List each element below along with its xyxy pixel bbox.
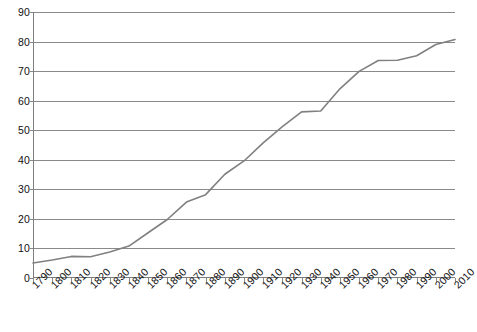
x-tick-label: 2010 <box>452 266 477 291</box>
y-tick-label: 50 <box>2 125 30 135</box>
y-tick-label: 30 <box>2 184 30 194</box>
plot-area <box>33 12 455 278</box>
x-axis: 1790180018101820183018401850186018701880… <box>33 283 461 332</box>
y-axis: 0102030405060708090 <box>0 0 30 332</box>
y-tick-label: 70 <box>2 66 30 76</box>
y-tick-label: 60 <box>2 96 30 106</box>
series-path <box>33 39 455 262</box>
y-tick-label: 40 <box>2 155 30 165</box>
y-tick-label: 20 <box>2 214 30 224</box>
y-tick-label: 0 <box>2 273 30 283</box>
data-series-line <box>33 12 455 278</box>
y-tick-label: 10 <box>2 243 30 253</box>
y-tick-label: 80 <box>2 37 30 47</box>
y-tick-label: 90 <box>2 7 30 17</box>
